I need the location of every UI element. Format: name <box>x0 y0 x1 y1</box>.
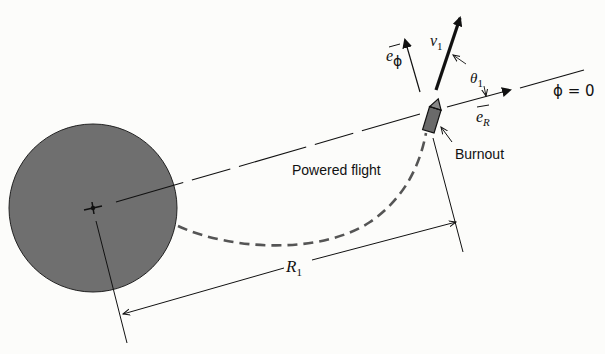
radial-reference-line <box>116 114 420 202</box>
unit-vector-e-phi <box>405 40 420 92</box>
burnout-pointer <box>441 127 452 142</box>
unit-vector-e-r <box>447 90 510 107</box>
theta-label: θ1 <box>470 70 483 89</box>
svg-text:eϕ: eϕ <box>386 47 402 69</box>
r1-dimension-arrow-right <box>312 222 456 260</box>
velocity-vector-v1 <box>436 18 460 90</box>
phi-zero-label: ϕ = 0 <box>553 82 595 100</box>
powered-flight-trajectory <box>178 133 426 245</box>
burnout-label: Burnout <box>455 146 504 162</box>
theta-indicator-to-velocity <box>453 55 466 64</box>
burnout-geometry-diagram: R1 v1 eϕ eR θ1 ϕ = 0 Burnout Powered fli… <box>0 0 605 354</box>
r1-label: R1 <box>285 257 302 278</box>
theta-indicator-to-er <box>484 86 486 96</box>
velocity-label: v1 <box>430 32 443 52</box>
e-r-label: eR <box>476 105 490 128</box>
svg-text:eR: eR <box>476 108 490 128</box>
e-phi-label: eϕ <box>386 44 402 69</box>
r1-dimension-arrow-left <box>123 268 284 314</box>
powered-flight-label: Powered flight <box>292 162 381 178</box>
rocket <box>423 97 444 133</box>
